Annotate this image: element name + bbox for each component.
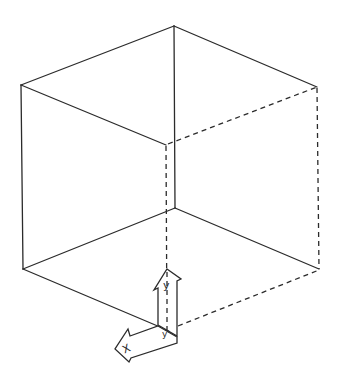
edge-bottom-left-to-bottom-front: [23, 269, 160, 327]
origin-label: y': [162, 329, 170, 339]
edge-top-left-to-top-front: [21, 85, 166, 145]
hidden-edge-right-vertical: [317, 88, 319, 269]
edge-bottom-left-to-bottom-back: [23, 208, 175, 269]
hidden-edge-bottom-front-to-bottom-right: [178, 270, 319, 326]
cube-diagram: y X y': [0, 0, 338, 374]
y-axis-label: y: [163, 279, 170, 292]
edge-left-vertical: [21, 85, 23, 269]
edge-bottom-back-to-bottom-right: [175, 208, 319, 269]
edge-top-left-to-top-back: [21, 26, 174, 85]
edge-top-back-vertical: [174, 26, 175, 208]
edge-top-back-to-top-right: [174, 26, 317, 87]
hidden-edge-top-front-to-top-right: [168, 87, 317, 144]
hidden-edges: [166, 87, 319, 333]
axis-triad: y X y': [115, 269, 181, 362]
